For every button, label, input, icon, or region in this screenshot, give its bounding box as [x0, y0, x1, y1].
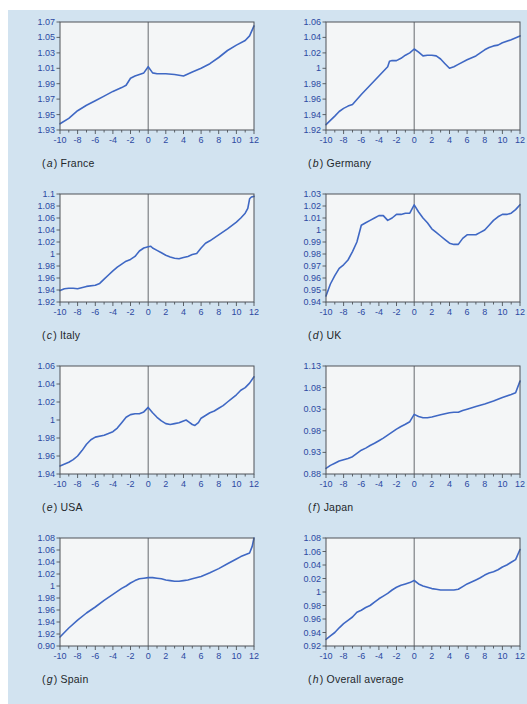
x-tick-label: 10 — [497, 135, 507, 145]
y-tick-label: 1.02 — [37, 397, 55, 407]
y-tick-label: 1.02 — [37, 237, 55, 247]
x-tick-label: -4 — [109, 135, 117, 145]
x-tick-label: -6 — [357, 307, 365, 317]
x-tick-label: 6 — [199, 307, 204, 317]
x-tick-label: 8 — [482, 479, 487, 489]
chart-caption: (d) UK — [308, 329, 526, 341]
y-tick-label: 1.98 — [37, 261, 55, 271]
y-tick-label: 1.05 — [37, 32, 55, 42]
x-tick-label: -2 — [392, 307, 400, 317]
y-tick-label: 1.02 — [303, 201, 321, 211]
x-tick-label: -8 — [74, 307, 82, 317]
x-tick-label: 2 — [163, 307, 168, 317]
x-tick-label: -10 — [53, 135, 66, 145]
plot-area — [60, 366, 254, 474]
y-tick-label: 1.94 — [37, 285, 55, 295]
x-tick-label: -10 — [319, 135, 332, 145]
y-tick-label: 1.01 — [37, 63, 55, 73]
y-tick-label: 1.08 — [303, 533, 321, 543]
x-tick-label: -6 — [357, 135, 365, 145]
x-tick-label: 12 — [515, 135, 525, 145]
x-tick-label: 0 — [146, 135, 151, 145]
x-tick-label: -8 — [340, 479, 348, 489]
x-tick-label: -4 — [109, 651, 117, 661]
chart-caption: (c) Italy — [42, 329, 260, 341]
y-tick-label: 1.06 — [37, 361, 55, 371]
y-tick-label: 1.04 — [37, 225, 55, 235]
y-tick-label: 0.96 — [303, 614, 321, 624]
x-tick-label: -8 — [74, 651, 82, 661]
x-tick-label: 8 — [216, 479, 221, 489]
chart-canvas: 1.061.041.0211.981.961.94-10-8-6-4-20246… — [20, 360, 260, 500]
x-tick-label: -4 — [375, 135, 383, 145]
x-tick-label: 12 — [515, 307, 525, 317]
x-tick-label: 8 — [216, 307, 221, 317]
y-tick-label: 1 — [50, 581, 55, 591]
y-tick-label: 1.08 — [37, 201, 55, 211]
x-tick-label: 0 — [146, 307, 151, 317]
x-tick-label: -2 — [126, 651, 134, 661]
x-tick-label: 6 — [465, 479, 470, 489]
x-tick-label: 10 — [231, 479, 241, 489]
x-tick-label: -8 — [340, 135, 348, 145]
y-tick-label: 1 — [50, 249, 55, 259]
y-tick-label: 0.03 — [303, 404, 321, 414]
y-tick-label: 1.04 — [303, 32, 321, 42]
x-tick-label: 12 — [515, 479, 525, 489]
x-tick-label: 2 — [163, 135, 168, 145]
x-tick-label: -10 — [319, 651, 332, 661]
y-tick-label: 1.03 — [303, 189, 321, 199]
chart-panel-g: 1.081.061.041.0211.981.961.941.920.90-10… — [20, 532, 260, 694]
y-tick-label: 1.13 — [303, 361, 321, 371]
x-tick-label: 0 — [412, 135, 417, 145]
x-tick-label: -6 — [91, 651, 99, 661]
x-tick-label: 6 — [465, 651, 470, 661]
x-tick-label: 8 — [482, 135, 487, 145]
plot-area — [326, 22, 520, 130]
chart-panel-b: 1.061.041.0211.981.961.941.92-10-8-6-4-2… — [286, 16, 526, 178]
x-tick-label: 4 — [181, 135, 186, 145]
y-tick-label: 1 — [316, 587, 321, 597]
x-tick-label: -2 — [392, 479, 400, 489]
x-tick-label: -10 — [319, 307, 332, 317]
chart-panel-a: 1.071.051.031.011.991.971.951.93-10-8-6-… — [20, 16, 260, 178]
x-tick-label: -10 — [53, 651, 66, 661]
y-tick-label: 0.94 — [303, 297, 321, 307]
x-tick-label: 12 — [515, 651, 525, 661]
y-tick-label: 1.94 — [37, 469, 55, 479]
x-tick-label: 10 — [231, 651, 241, 661]
y-tick-label: 1.98 — [37, 433, 55, 443]
x-tick-label: -2 — [126, 307, 134, 317]
y-tick-label: 1.92 — [37, 297, 55, 307]
x-tick-label: -2 — [126, 479, 134, 489]
y-tick-label: 1.94 — [37, 617, 55, 627]
y-tick-label: 0.94 — [303, 628, 321, 638]
x-tick-label: 6 — [199, 135, 204, 145]
y-tick-label: 0.98 — [303, 426, 321, 436]
x-tick-label: 6 — [199, 479, 204, 489]
x-tick-label: 4 — [447, 651, 452, 661]
y-tick-label: 1.06 — [303, 17, 321, 27]
chart-canvas: 1.031.021.0110.990.980.970.960.950.94-10… — [286, 188, 526, 328]
charts-grid: 1.071.051.031.011.991.971.951.93-10-8-6-… — [8, 10, 527, 694]
x-tick-label: -6 — [357, 651, 365, 661]
x-tick-label: 2 — [429, 651, 434, 661]
y-tick-label: 1.07 — [37, 17, 55, 27]
x-tick-label: -6 — [91, 307, 99, 317]
y-tick-label: 0.98 — [303, 601, 321, 611]
x-tick-label: -8 — [340, 651, 348, 661]
x-tick-label: -6 — [357, 479, 365, 489]
x-tick-label: 2 — [429, 135, 434, 145]
x-tick-label: -4 — [109, 479, 117, 489]
x-tick-label: -8 — [340, 307, 348, 317]
x-tick-label: 4 — [447, 307, 452, 317]
x-tick-label: 6 — [465, 307, 470, 317]
y-tick-label: 1 — [50, 415, 55, 425]
y-tick-label: 0.92 — [303, 641, 321, 651]
x-tick-label: 4 — [181, 307, 186, 317]
y-tick-label: 0.02 — [303, 574, 321, 584]
x-tick-label: 4 — [447, 479, 452, 489]
y-tick-label: 1.98 — [37, 593, 55, 603]
y-tick-label: 1.94 — [303, 110, 321, 120]
x-tick-label: -2 — [392, 651, 400, 661]
